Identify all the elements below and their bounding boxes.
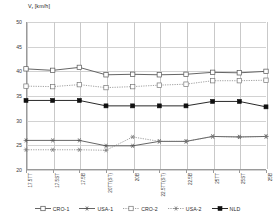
- x-axis-tick-label: 17.5TT: [28, 173, 33, 188]
- legend-item-cro-2[interactable]: CRO-2: [123, 205, 158, 212]
- data-point: [24, 67, 28, 71]
- data-point: [24, 138, 29, 142]
- x-axis-tick-mark: [186, 170, 187, 173]
- data-point: [130, 144, 135, 148]
- x-axis-tick-mark: [213, 170, 214, 173]
- y-axis-title: Vr [km/h]: [28, 3, 50, 10]
- data-point: [104, 73, 108, 77]
- legend-label: CRO-2: [141, 206, 158, 212]
- data-point: [210, 134, 215, 138]
- legend-item-nld[interactable]: NLD: [212, 205, 241, 212]
- data-point: [50, 68, 54, 72]
- data-point: [264, 69, 268, 73]
- y-axis-title-unit: [km/h]: [33, 3, 50, 9]
- data-point: [130, 84, 134, 88]
- series-cro-1: [24, 65, 268, 77]
- series-line: [26, 136, 266, 145]
- data-point: [50, 84, 54, 88]
- y-axis-tick-label: 50: [6, 19, 22, 25]
- legend-swatch-open-square-icon: [35, 205, 51, 212]
- data-point: [157, 83, 161, 87]
- y-axis-tick-label: 45: [6, 44, 22, 50]
- x-axis-tick-label: 22.5B: [188, 173, 193, 185]
- data-point: [237, 71, 241, 75]
- data-point: [131, 104, 135, 108]
- data-point: [24, 98, 28, 102]
- x-axis-tick-label: 25B: [268, 173, 273, 181]
- x-axis-tick-label: 17.5B: [81, 173, 86, 185]
- data-point: [210, 79, 214, 83]
- legend-swatch-star-icon: [168, 205, 184, 212]
- y-axis-tick-label: 30: [6, 118, 22, 124]
- series-nld: [24, 98, 268, 108]
- data-point: [77, 98, 81, 102]
- legend-swatch-open-square-icon: [123, 205, 139, 212]
- x-axis-tick-label: 25ST: [241, 173, 246, 184]
- y-axis-tick-label: 20: [6, 167, 22, 173]
- data-point: [157, 73, 161, 77]
- series-line: [26, 100, 266, 106]
- x-axis-tick-mark: [266, 170, 267, 173]
- data-point: [264, 78, 268, 82]
- series-line: [26, 67, 266, 74]
- gridline-horizontal: [27, 170, 266, 171]
- data-point: [264, 105, 268, 109]
- series-line: [26, 80, 266, 87]
- data-point: [184, 82, 188, 86]
- gridline-vertical: [267, 22, 268, 169]
- data-point: [77, 138, 82, 142]
- data-point: [210, 70, 214, 74]
- data-point: [50, 138, 55, 142]
- data-point: [237, 99, 241, 103]
- x-axis-tick-label: 25TT: [215, 173, 220, 184]
- data-point: [184, 72, 188, 76]
- data-point: [24, 148, 29, 152]
- data-point: [104, 144, 109, 148]
- data-point: [157, 104, 161, 108]
- legend-item-usa-2[interactable]: USA-2: [168, 205, 202, 212]
- data-point: [77, 65, 81, 69]
- x-axis-tick-mark: [106, 170, 107, 173]
- x-axis-tick-label: 20B: [135, 173, 140, 181]
- data-point: [77, 82, 81, 86]
- data-point: [237, 135, 242, 139]
- data-point: [237, 79, 241, 83]
- legend-swatch-filled-square-icon: [212, 205, 228, 212]
- data-point: [104, 104, 108, 108]
- legend-label: USA-1: [97, 206, 113, 212]
- legend-label: CRO-1: [53, 206, 70, 212]
- data-point: [50, 148, 55, 152]
- data-point: [130, 135, 135, 139]
- y-axis-tick-label: 35: [6, 93, 22, 99]
- chart-container: Vr [km/h] 50454035302520 17.5TT17.5ST17.…: [0, 0, 275, 223]
- series-usa-1: [24, 134, 269, 148]
- x-axis-tick-mark: [53, 170, 54, 173]
- data-point: [104, 85, 108, 89]
- data-point: [184, 104, 188, 108]
- series-layer: [26, 22, 266, 170]
- legend-item-cro-1[interactable]: CRO-1: [35, 205, 70, 212]
- legend-swatch-star-icon: [79, 205, 95, 212]
- series-cro-2: [24, 78, 268, 90]
- legend-item-usa-1[interactable]: USA-1: [79, 205, 113, 212]
- x-axis-tick-label: 20TT(ST): [108, 173, 113, 193]
- y-axis-tick-label: 40: [6, 68, 22, 74]
- y-axis-tick-label: 25: [6, 142, 22, 148]
- data-point: [157, 139, 162, 143]
- x-axis-tick-mark: [133, 170, 134, 173]
- legend-label: NLD: [230, 206, 241, 212]
- legend-label: USA-2: [186, 206, 202, 212]
- data-point: [24, 84, 28, 88]
- x-axis-tick-label: 17.5ST: [55, 173, 60, 188]
- data-point: [51, 98, 55, 102]
- data-point: [211, 99, 215, 103]
- x-axis-tick-mark: [26, 170, 27, 173]
- x-axis-tick-label: 22.5TT(ST): [161, 173, 166, 196]
- data-point: [77, 148, 82, 152]
- legend: CRO-1USA-1CRO-2USA-2NLD: [0, 205, 275, 212]
- data-point: [130, 72, 134, 76]
- data-point: [104, 148, 109, 152]
- data-point: [184, 139, 189, 143]
